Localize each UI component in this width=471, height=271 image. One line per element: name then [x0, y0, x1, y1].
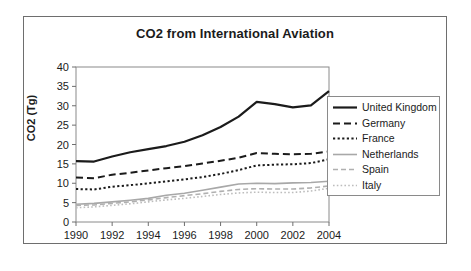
series-line	[76, 188, 329, 207]
legend-item-label: Italy	[362, 180, 381, 191]
figure-root: CO2 from International Aviation CO2 (Tg)…	[0, 0, 471, 271]
chart-legend: United KingdomGermanyFranceNetherlandsSp…	[327, 96, 440, 196]
legend-line-swatch	[332, 164, 358, 175]
y-axis-tick-label: 25	[57, 119, 69, 131]
y-axis-tick-label: 30	[57, 100, 69, 112]
legend-line-swatch	[332, 149, 358, 160]
legend-item-label: Germany	[362, 118, 405, 129]
y-axis-tick-label: 40	[57, 61, 69, 73]
x-axis-tick-label: 2002	[281, 229, 305, 241]
axis-layer: 0510152025303540199019921994199619982000…	[57, 61, 341, 241]
legend-line-swatch	[332, 118, 358, 129]
legend-item-label: Spain	[362, 164, 389, 175]
legend-item-label: France	[362, 133, 395, 144]
y-axis-tick-label: 35	[57, 80, 69, 92]
x-axis-tick-label: 1996	[172, 229, 196, 241]
legend-item[interactable]: France	[332, 131, 439, 147]
x-axis-tick-label: 1992	[100, 229, 124, 241]
y-axis-tick-label: 10	[57, 177, 69, 189]
x-axis-tick-label: 1994	[136, 229, 160, 241]
legend-item-label: Netherlands	[362, 149, 419, 160]
y-axis-tick-label: 5	[63, 197, 69, 209]
y-axis-tick-label: 0	[63, 216, 69, 228]
legend-item[interactable]: Germany	[332, 116, 439, 132]
legend-item[interactable]: Netherlands	[332, 147, 439, 163]
x-axis-tick-label: 1990	[64, 229, 88, 241]
legend-item-label: United Kingdom	[362, 102, 437, 113]
series-layer	[76, 91, 329, 208]
y-axis-tick-label: 20	[57, 139, 69, 151]
legend-line-swatch	[332, 102, 358, 113]
y-axis-tick-label: 15	[57, 158, 69, 170]
x-axis-tick-label: 1998	[208, 229, 232, 241]
x-axis-tick-label: 2000	[244, 229, 268, 241]
legend-item[interactable]: Italy	[332, 178, 439, 194]
series-line	[76, 181, 329, 204]
legend-line-swatch	[332, 180, 358, 191]
legend-item[interactable]: United Kingdom	[332, 100, 439, 116]
series-line	[76, 91, 329, 162]
plot-frame	[76, 67, 329, 222]
x-axis-tick-label: 2004	[317, 229, 341, 241]
legend-line-swatch	[332, 133, 358, 144]
legend-item[interactable]: Spain	[332, 162, 439, 178]
